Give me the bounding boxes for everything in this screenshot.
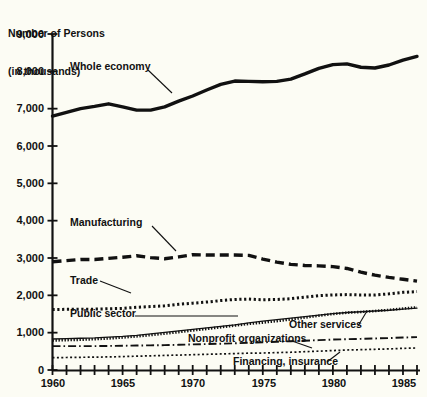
series-label-trade: Trade bbox=[70, 274, 98, 286]
x-tick-label-1975: 1975 bbox=[244, 377, 284, 389]
chart-figure: Number of Persons (in thousands) 9,000 8… bbox=[0, 0, 427, 397]
y-tick-label-0: 0 bbox=[0, 364, 44, 376]
x-tick-label-1985: 1985 bbox=[384, 377, 424, 389]
y-tick-label-7000: 7,000 bbox=[0, 102, 44, 114]
x-tick-label-1970: 1970 bbox=[173, 377, 213, 389]
y-tick-label-4000: 4,000 bbox=[0, 214, 44, 226]
y-tick-label-2000: 2,000 bbox=[0, 289, 44, 301]
series-label-manufacturing: Manufacturing bbox=[70, 216, 142, 228]
series-label-other-services: Other services bbox=[289, 318, 362, 330]
series-label-public-sector: Public sector bbox=[70, 307, 136, 319]
y-tick-label-9000: 9,000 bbox=[0, 28, 44, 40]
x-tick-label-1960: 1960 bbox=[33, 377, 73, 389]
axis-lines bbox=[53, 34, 421, 371]
y-tick-label-5000: 5,000 bbox=[0, 177, 44, 189]
y-tick-label-6000: 6,000 bbox=[0, 140, 44, 152]
series-label-financing: Financing, insurance bbox=[233, 355, 338, 367]
series-line-manufacturing bbox=[53, 255, 418, 282]
y-tick-label-3000: 3,000 bbox=[0, 252, 44, 264]
x-tick-label-1980: 1980 bbox=[314, 377, 354, 389]
y-tick-label-1000: 1,000 bbox=[0, 326, 44, 338]
series-label-nonprofit: Nonprofit organizations bbox=[188, 332, 306, 344]
x-tick-label-1965: 1965 bbox=[103, 377, 143, 389]
y-tick-label-8000: 8,000 bbox=[0, 65, 44, 77]
series-label-whole-economy: Whole economy bbox=[70, 60, 151, 72]
